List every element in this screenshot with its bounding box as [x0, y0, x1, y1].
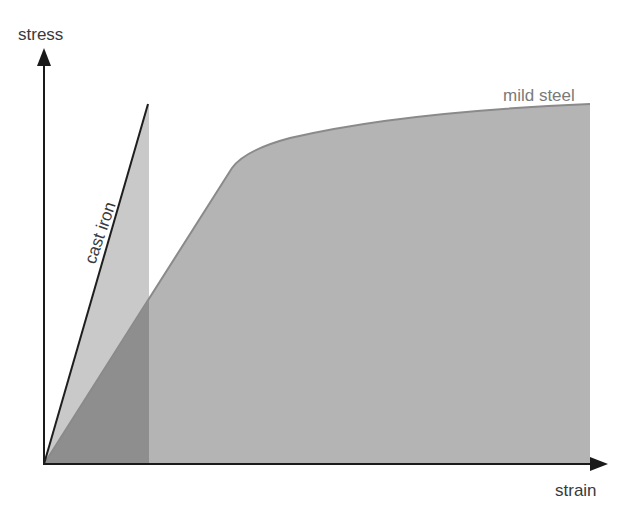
x-axis-label: strain	[555, 481, 597, 500]
y-axis-label: stress	[18, 25, 63, 44]
mild-steel-label: mild steel	[503, 86, 575, 105]
x-axis-arrow-icon	[590, 457, 608, 471]
y-axis-arrow-icon	[37, 48, 51, 66]
stress-strain-chart: stress strain mild steel cast iron	[0, 0, 630, 516]
